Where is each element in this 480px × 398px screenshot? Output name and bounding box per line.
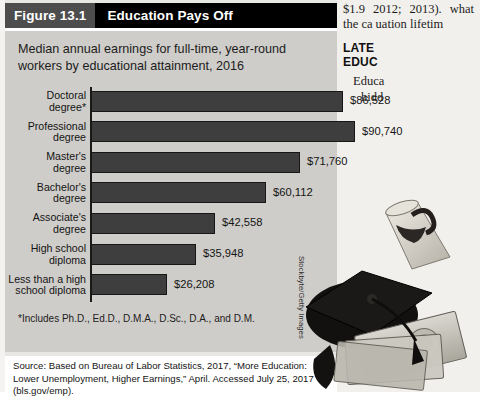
chart-bar-label: Less than a highschool diploma: [5, 274, 86, 297]
chart-bar-row: Doctoraldegree*$86,528: [5, 89, 337, 113]
chart-bar-row: High schooldiploma$35,948: [5, 242, 337, 266]
chart-bar-row: Bachelor'sdegree$60,112: [5, 181, 337, 205]
chart-bar-label-line2: degree: [5, 163, 86, 175]
chart-footnote: *Includes Ph.D., Ed.D., D.M.A., D.Sc., D…: [18, 313, 255, 324]
chart-bar-value-label: $86,528: [350, 94, 390, 106]
chart-bar-label-line1: Doctoral: [5, 90, 86, 102]
book-text-column: $1.9 2012; 2013). what the ca uation lif…: [335, 0, 480, 392]
chart-bar-label-line1: High school: [5, 243, 86, 255]
chart-bar-row: Professionaldegree$90,740: [5, 120, 337, 144]
chart-bar-label-line2: school diploma: [5, 285, 86, 297]
chart-card: Median annual earnings for full-time, ye…: [5, 31, 337, 352]
chart-bar: [91, 182, 266, 203]
chart-subtitle: Median annual earnings for full-time, ye…: [18, 41, 318, 75]
chart-bar-label-line2: degree: [5, 132, 86, 144]
chart-bar-value-label: $71,760: [307, 155, 347, 167]
chart-plot-area: Doctoraldegree*$86,528Professionaldegree…: [5, 87, 337, 302]
chart-bar-value-label: $42,558: [222, 216, 262, 228]
chart-bar-label-line2: degree*: [5, 102, 86, 114]
chart-bar-value-label: $90,740: [362, 125, 402, 137]
chart-bar: [91, 91, 343, 112]
figure-header: Figure 13.1 Education Pays Off: [5, 3, 337, 28]
book-section-heading: LATE EDUC: [335, 41, 480, 69]
chart-bar: [91, 244, 196, 265]
book-paragraph-top: $1.9 2012; 2013). what the ca uation lif…: [335, 0, 480, 32]
chart-bar-row: Master'sdegree$71,760: [5, 150, 337, 174]
chart-bar-value-label: $35,948: [203, 247, 243, 259]
chart-bar-label: Doctoraldegree*: [5, 90, 86, 113]
chart-bar-value-label: $60,112: [273, 186, 313, 198]
chart-bar-label: High schooldiploma: [5, 243, 86, 266]
chart-bar-label: Professionaldegree: [5, 121, 86, 144]
chart-bar: [91, 213, 215, 234]
chart-bar-label-line2: diploma: [5, 255, 86, 267]
chart-bar-label: Associate'sdegree: [5, 212, 86, 235]
book-section-heading-line2: EDUC: [343, 55, 474, 69]
chart-bar-label: Master'sdegree: [5, 151, 86, 174]
chart-bar-value-label: $26,208: [174, 278, 214, 290]
chart-bar: [91, 274, 167, 295]
chart-bar-label-line2: degree: [5, 224, 86, 236]
figure-number: Figure 13.1: [5, 3, 95, 28]
figure-source-note: Source: Based on Bureau of Labor Statist…: [5, 356, 337, 398]
book-section-heading-line1: LATE: [343, 41, 474, 55]
chart-bar: [91, 152, 300, 173]
book-paragraph-bottom-line1: Educa: [335, 74, 480, 89]
chart-bar-row: Associate'sdegree$42,558: [5, 211, 337, 235]
figure-title: Education Pays Off: [95, 3, 233, 28]
chart-bar-label: Bachelor'sdegree: [5, 182, 86, 205]
chart-bar-label-line2: degree: [5, 193, 86, 205]
chart-bar-row: Less than a highschool diploma$26,208: [5, 273, 337, 297]
figure-panel: Figure 13.1 Education Pays Off Median an…: [0, 0, 337, 392]
chart-bar: [91, 121, 355, 142]
photo-credit: Stockbyte/Getty Images: [297, 256, 306, 339]
